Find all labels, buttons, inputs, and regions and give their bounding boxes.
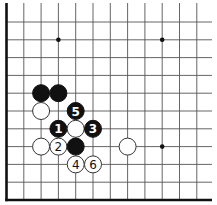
black-stone bbox=[50, 85, 67, 102]
board-grid bbox=[5, 3, 212, 201]
move-number: 5 bbox=[72, 105, 80, 119]
white-stone bbox=[67, 120, 84, 137]
stone-circle bbox=[50, 85, 67, 102]
star-point bbox=[160, 144, 165, 149]
stone-circle bbox=[67, 138, 84, 155]
white-stone-4: 4 bbox=[67, 156, 84, 173]
star-point bbox=[56, 38, 61, 43]
black-stone bbox=[33, 85, 50, 102]
white-stone-6: 6 bbox=[85, 156, 102, 173]
move-number: 2 bbox=[55, 140, 63, 154]
star-point bbox=[160, 38, 165, 43]
black-stone-3: 3 bbox=[85, 120, 102, 137]
black-stone bbox=[67, 138, 84, 155]
move-number: 1 bbox=[54, 122, 62, 136]
white-stone-2: 2 bbox=[50, 138, 67, 155]
go-board: 513246 bbox=[0, 0, 217, 205]
stone-circle bbox=[33, 85, 50, 102]
black-stone-1: 1 bbox=[50, 120, 67, 137]
stone-circle bbox=[33, 138, 50, 155]
stone-circle bbox=[67, 120, 84, 137]
white-stone bbox=[119, 138, 136, 155]
stone-circle bbox=[119, 138, 136, 155]
black-stone-5: 5 bbox=[67, 103, 84, 120]
stone-circle bbox=[33, 103, 50, 120]
move-number: 3 bbox=[89, 122, 97, 136]
white-stone bbox=[33, 103, 50, 120]
move-number: 6 bbox=[89, 158, 97, 172]
white-stone bbox=[33, 138, 50, 155]
move-number: 4 bbox=[72, 158, 80, 172]
